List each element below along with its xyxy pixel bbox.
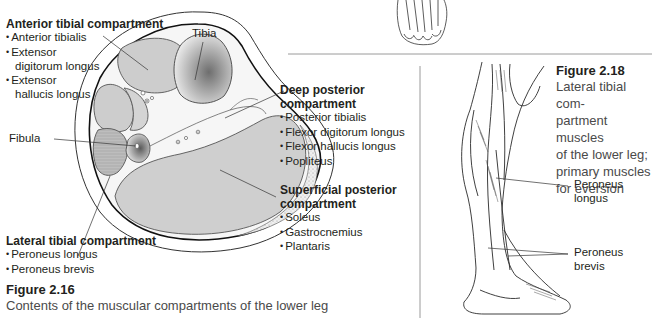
anterior-item-cont: hallucis longus [6, 88, 163, 102]
figure-2-18-caption-line: Lateral tibial com- [556, 78, 652, 112]
figure-2-18-caption-block: Figure 2.18 Lateral tibial com- partment… [556, 63, 652, 197]
peroneus-brevis-line2: brevis [574, 260, 623, 274]
anterior-item: Extensor [6, 46, 163, 61]
superficial-posterior-heading: Superficial posterior [280, 183, 397, 197]
superficial-posterior-item: Gastrocnemius [280, 226, 397, 241]
superficial-posterior-heading-2: compartment [280, 197, 397, 211]
figure-2-18-caption-line: of the lower leg; [556, 146, 652, 163]
peroneus-longus-label: Peroneus longus [574, 178, 623, 205]
deep-posterior-item: Posterior tibialis [280, 111, 405, 126]
anterior-item-cont: digitorum longus [6, 60, 163, 74]
lateral-item: Peroneus longus [6, 248, 156, 263]
lateral-heading: Lateral tibial compartment [6, 234, 156, 248]
deep-posterior-item: Flexor digitorum longus [280, 126, 405, 141]
superficial-posterior-item: Plantaris [280, 240, 397, 255]
anterior-item: Anterior tibialis [6, 31, 163, 46]
anterior-compartment-block: Anterior tibial compartment Anterior tib… [6, 17, 163, 102]
lateral-compartment-block: Lateral tibial compartment Peroneus long… [6, 234, 156, 277]
superficial-posterior-item: Soleus [280, 211, 397, 226]
foot-illustration [397, 0, 447, 45]
deep-posterior-block: Deep posterior compartment Posterior tib… [280, 83, 405, 169]
figure-2-16-caption-block: Figure 2.16 Contents of the muscular com… [6, 282, 328, 314]
peroneus-longus-line1: Peroneus [574, 178, 623, 192]
deep-posterior-heading: Deep posterior [280, 83, 405, 97]
lower-leg-illustration [462, 62, 571, 314]
deep-posterior-item: Flexor hallucis longus [280, 140, 405, 155]
figure-2-18-title: Figure 2.18 [556, 63, 652, 78]
lateral-item: Peroneus brevis [6, 263, 156, 278]
figure-2-16-caption: Contents of the muscular compartments of… [6, 297, 328, 314]
peroneus-brevis-line1: Peroneus [574, 246, 623, 260]
peroneus-longus-line2: longus [574, 192, 623, 206]
figure-2-18-caption-line: partment muscles [556, 112, 652, 146]
deep-posterior-heading-2: compartment [280, 97, 405, 111]
tibia-label: Tibia [192, 27, 217, 41]
superficial-posterior-block: Superficial posterior compartment Soleus… [280, 183, 397, 255]
anterior-item: Extensor [6, 74, 163, 89]
peroneus-brevis-label: Peroneus brevis [574, 246, 623, 273]
anterior-heading: Anterior tibial compartment [6, 17, 163, 31]
figure-2-16-title: Figure 2.16 [6, 282, 328, 297]
deep-posterior-item: Popliteus [280, 155, 405, 170]
fibula-label: Fibula [9, 132, 40, 146]
